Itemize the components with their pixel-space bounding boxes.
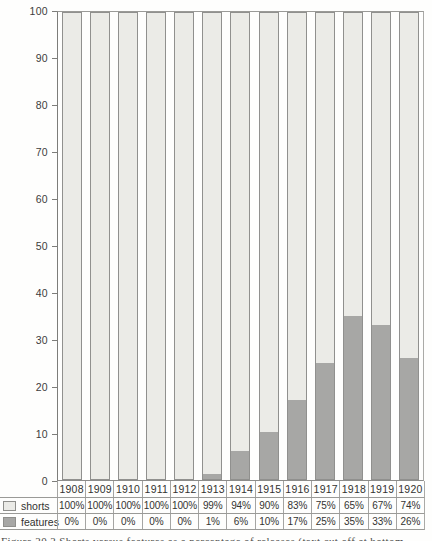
shorts-segment bbox=[260, 13, 278, 432]
features-value-1919: 33% bbox=[368, 514, 396, 529]
bar-column-1909 bbox=[86, 12, 114, 480]
features-value-1909: 0% bbox=[85, 514, 113, 529]
bar-column-1915 bbox=[255, 12, 283, 480]
shorts-segment bbox=[344, 13, 362, 316]
features-segment bbox=[316, 363, 334, 480]
year-cell-1914: 1914 bbox=[226, 481, 254, 497]
shorts-segment bbox=[316, 13, 334, 363]
features-segment bbox=[260, 432, 278, 479]
bar-column-1913 bbox=[198, 12, 226, 480]
shorts-swatch-icon bbox=[3, 501, 16, 511]
stacked-bar-1911 bbox=[146, 12, 166, 480]
bar-column-1918 bbox=[339, 12, 367, 480]
y-tick-label-80: 80 bbox=[8, 99, 48, 111]
year-cell-1920: 1920 bbox=[396, 481, 424, 497]
shorts-value-1909: 100% bbox=[85, 498, 113, 513]
features-value-1916: 17% bbox=[283, 514, 311, 529]
features-value-1918: 35% bbox=[339, 514, 367, 529]
shorts-value-1916: 83% bbox=[283, 498, 311, 513]
legend-shorts-label: shorts bbox=[21, 500, 50, 512]
caption-cutoff: Figure 20.2 Shorts versus features as a … bbox=[1, 535, 431, 541]
shorts-segment bbox=[175, 13, 193, 479]
year-cell-1911: 1911 bbox=[142, 481, 170, 497]
features-segment bbox=[288, 400, 306, 479]
year-cell-1917: 1917 bbox=[311, 481, 339, 497]
y-tick-label-70: 70 bbox=[8, 146, 48, 158]
y-tick-label-100: 100 bbox=[8, 5, 48, 17]
shorts-value-1915: 90% bbox=[255, 498, 283, 513]
features-swatch-icon bbox=[3, 517, 16, 527]
y-tick-label-60: 60 bbox=[8, 193, 48, 205]
data-table: 1908190919101911191219131914191519161917… bbox=[0, 481, 425, 530]
plot-area bbox=[57, 11, 424, 481]
stacked-bar-1920 bbox=[399, 12, 419, 480]
features-value-1920: 26% bbox=[396, 514, 424, 529]
shorts-value-1911: 100% bbox=[142, 498, 170, 513]
legend-item-features: features bbox=[0, 514, 57, 529]
shorts-value-1913: 99% bbox=[198, 498, 226, 513]
year-cell-1918: 1918 bbox=[339, 481, 367, 497]
stacked-bar-1917 bbox=[315, 12, 335, 480]
y-tick-label-10: 10 bbox=[8, 428, 48, 440]
features-value-1912: 0% bbox=[170, 514, 198, 529]
shorts-segment bbox=[63, 13, 81, 479]
bar-column-1917 bbox=[311, 12, 339, 480]
shorts-value-1914: 94% bbox=[226, 498, 254, 513]
stacked-bar-1919 bbox=[371, 12, 391, 480]
shorts-segment bbox=[372, 13, 390, 325]
stacked-bar-1913 bbox=[202, 12, 222, 480]
year-cell-1908: 1908 bbox=[57, 481, 85, 497]
features-value-1911: 0% bbox=[142, 514, 170, 529]
stacked-bar-1908 bbox=[62, 12, 82, 480]
legend-item-shorts: shorts bbox=[0, 498, 57, 513]
shorts-segment bbox=[203, 13, 221, 474]
y-tick-label-20: 20 bbox=[8, 381, 48, 393]
shorts-segment bbox=[288, 13, 306, 400]
shorts-value-1910: 100% bbox=[113, 498, 141, 513]
bar-column-1919 bbox=[367, 12, 395, 480]
stacked-bar-1915 bbox=[259, 12, 279, 480]
legend-features-label: features bbox=[21, 516, 59, 528]
shorts-value-1919: 67% bbox=[368, 498, 396, 513]
year-cell-1913: 1913 bbox=[198, 481, 226, 497]
stacked-bar-1918 bbox=[343, 12, 363, 480]
features-value-1908: 0% bbox=[57, 514, 85, 529]
shorts-segment bbox=[400, 13, 418, 358]
bar-column-1914 bbox=[226, 12, 254, 480]
shorts-value-1918: 65% bbox=[339, 498, 367, 513]
features-segment bbox=[344, 316, 362, 479]
features-segment bbox=[231, 451, 249, 479]
bar-column-1910 bbox=[114, 12, 142, 480]
year-cell-1912: 1912 bbox=[170, 481, 198, 497]
y-tick-label-50: 50 bbox=[8, 240, 48, 252]
shorts-segment bbox=[147, 13, 165, 479]
features-value-1915: 10% bbox=[255, 514, 283, 529]
table-row-years: 1908190919101911191219131914191519161917… bbox=[0, 481, 425, 498]
shorts-segment bbox=[91, 13, 109, 479]
chart-figure: 1009080706050403020100 19081909191019111… bbox=[0, 0, 432, 541]
features-segment bbox=[400, 358, 418, 479]
y-tick-label-30: 30 bbox=[8, 334, 48, 346]
bar-column-1916 bbox=[283, 12, 311, 480]
y-tick-label-40: 40 bbox=[8, 287, 48, 299]
features-value-1914: 6% bbox=[226, 514, 254, 529]
shorts-value-1912: 100% bbox=[170, 498, 198, 513]
bar-column-1911 bbox=[142, 12, 170, 480]
stacked-bar-1909 bbox=[90, 12, 110, 480]
year-cell-1919: 1919 bbox=[368, 481, 396, 497]
features-value-1913: 1% bbox=[198, 514, 226, 529]
year-cell-1909: 1909 bbox=[85, 481, 113, 497]
features-value-1910: 0% bbox=[113, 514, 141, 529]
shorts-segment bbox=[231, 13, 249, 451]
year-cell-1915: 1915 bbox=[255, 481, 283, 497]
bar-column-1912 bbox=[170, 12, 198, 480]
bar-column-1908 bbox=[58, 12, 86, 480]
y-tick-label-90: 90 bbox=[8, 52, 48, 64]
bar-column-1920 bbox=[395, 12, 423, 480]
stacked-bar-1914 bbox=[230, 12, 250, 480]
year-cell-1916: 1916 bbox=[283, 481, 311, 497]
stacked-bar-1910 bbox=[118, 12, 138, 480]
shorts-value-1908: 100% bbox=[57, 498, 85, 513]
year-cell-1910: 1910 bbox=[113, 481, 141, 497]
features-segment bbox=[203, 474, 221, 479]
